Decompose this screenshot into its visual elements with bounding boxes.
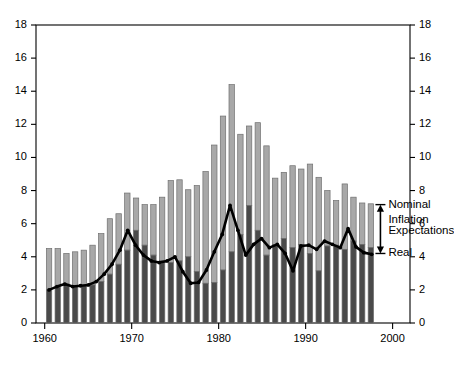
y-axis-tick-label-left: 0 [21, 316, 27, 328]
bar-real-segment [99, 282, 104, 323]
bar-real-segment [116, 264, 121, 323]
bar-real-segment [186, 257, 191, 323]
real-rate-point [197, 281, 201, 285]
bar-nominal-segment [72, 252, 77, 287]
bar-nominal-segment [125, 193, 130, 250]
bar-nominal-segment [238, 134, 243, 234]
y-axis-tick-label-right: 0 [419, 316, 425, 328]
bar-real-segment [55, 287, 60, 323]
bar-nominal-segment [177, 180, 182, 261]
y-axis-tick-label-left: 10 [15, 150, 27, 162]
real-rate-point [134, 243, 138, 247]
real-rate-point [157, 261, 161, 265]
bar-nominal-segment [151, 205, 156, 255]
bar-real-segment [272, 244, 277, 323]
y-axis-tick-label-right: 14 [419, 84, 431, 96]
bar-real-segment [290, 248, 295, 323]
y-axis-tick-label-left: 18 [15, 18, 27, 30]
y-axis-tick-label-right: 2 [419, 283, 425, 295]
real-rate-point [118, 248, 122, 252]
bar-nominal-segment [307, 164, 312, 253]
bar-real-segment [342, 249, 347, 323]
x-axis-tick-label: 2000 [380, 332, 404, 344]
real-rate-point [362, 251, 366, 255]
bar-group [212, 145, 217, 323]
bar-nominal-segment [264, 146, 269, 255]
y-axis-tick-label-right: 12 [419, 117, 431, 129]
bar-nominal-segment [325, 191, 330, 246]
bar-nominal-segment [142, 205, 147, 246]
bar-real-segment [359, 244, 364, 323]
real-rate-point [142, 253, 146, 257]
real-annotation-label: Real [388, 246, 412, 259]
real-rate-point [267, 246, 271, 250]
real-rate-point [283, 252, 287, 256]
bar-real-segment [299, 244, 304, 323]
real-rate-point [260, 237, 264, 241]
bar-group [290, 166, 295, 323]
x-axis-tick-label: 1990 [293, 332, 317, 344]
x-axis-tick-label: 1970 [119, 332, 143, 344]
y-axis-tick-label-left: 16 [15, 51, 27, 63]
bar-nominal-segment [186, 190, 191, 257]
real-rate-point [354, 245, 358, 249]
bar-real-segment [194, 272, 199, 323]
bar-group [168, 181, 173, 323]
bar-real-segment [168, 263, 173, 323]
bar-group [116, 214, 121, 323]
bar-nominal-segment [272, 178, 277, 244]
bar-group [151, 205, 156, 323]
real-rate-point [330, 242, 334, 246]
bar-real-segment [316, 271, 321, 323]
real-rate-point [236, 228, 240, 232]
x-axis-tick-label: 1960 [32, 332, 56, 344]
bar-nominal-segment [90, 245, 95, 285]
real-rate-point [173, 255, 177, 259]
bar-real-segment [246, 205, 251, 323]
bar-real-segment [351, 241, 356, 323]
y-axis-tick-label-right: 18 [419, 18, 431, 30]
y-axis-tick-label-right: 16 [419, 51, 431, 63]
y-axis-tick-label-right: 8 [419, 184, 425, 196]
real-rate-point [275, 242, 279, 246]
real-rate-point [47, 288, 51, 292]
real-rate-point [55, 285, 59, 289]
bar-group [186, 190, 191, 323]
bar-real-segment [220, 270, 225, 323]
bar-group [64, 253, 69, 323]
bar-group [125, 193, 130, 323]
bar-nominal-segment [281, 172, 286, 238]
bar-nominal-segment [168, 181, 173, 263]
real-rate-point [220, 233, 224, 237]
bar-nominal-segment [194, 186, 199, 272]
bar-group [342, 184, 347, 323]
y-axis-tick-label-right: 4 [419, 250, 425, 262]
bar-real-segment [229, 252, 234, 323]
real-rate-point [63, 282, 67, 286]
bar-group [368, 204, 373, 323]
bar-real-segment [333, 245, 338, 323]
bar-real-segment [203, 283, 208, 323]
real-rate-point [165, 259, 169, 263]
real-rate-point [315, 247, 319, 251]
y-axis-tick-label-left: 14 [15, 84, 27, 96]
real-rate-point [212, 250, 216, 254]
bar-group [246, 126, 251, 323]
inflation-expectations-annotation-line2: Expectations [388, 224, 454, 237]
nominal-annotation-label: Nominal [388, 198, 430, 211]
bar-nominal-segment [229, 85, 234, 252]
bar-real-segment [325, 246, 330, 323]
bar-nominal-segment [368, 204, 373, 248]
real-rate-point [110, 262, 114, 266]
bar-nominal-segment [133, 198, 138, 230]
bar-group [272, 178, 277, 323]
arrowhead-up-icon [377, 205, 384, 212]
bar-real-segment [151, 255, 156, 323]
real-rate-point [346, 227, 350, 231]
bar-group [264, 146, 269, 323]
bar-nominal-segment [159, 197, 164, 261]
bar-group [325, 191, 330, 323]
y-axis-tick-label-left: 2 [21, 283, 27, 295]
real-rate-point [205, 268, 209, 272]
real-rate-point [79, 284, 83, 288]
